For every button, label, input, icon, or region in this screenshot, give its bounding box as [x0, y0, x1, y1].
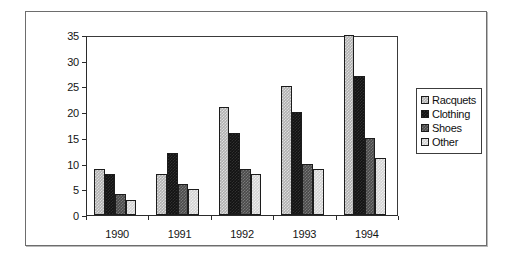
y-tick-label: 10: [67, 159, 79, 170]
y-tick-label: 35: [67, 31, 79, 42]
x-axis-line: [86, 215, 398, 216]
legend-swatch-icon: [421, 124, 429, 132]
bar: [240, 169, 251, 215]
x-axis-label: 1991: [168, 229, 192, 240]
x-tick-mark: [86, 216, 87, 220]
x-tick-mark: [398, 216, 399, 220]
y-tick-mark: [82, 139, 86, 140]
legend-item[interactable]: Shoes: [421, 121, 476, 135]
legend-item[interactable]: Other: [421, 135, 476, 149]
bar: [292, 112, 303, 215]
legend-label: Racquets: [432, 95, 476, 106]
legend-swatch-icon: [421, 110, 429, 118]
y-tick-label: 25: [67, 82, 79, 93]
y-tick-label: 0: [73, 211, 79, 222]
x-axis-label: 1994: [355, 229, 379, 240]
x-tick-mark: [211, 216, 212, 220]
bar: [105, 174, 116, 215]
y-tick-mark: [82, 190, 86, 191]
y-tick-label: 20: [67, 108, 79, 119]
bar: [229, 133, 240, 215]
y-axis-line: [86, 36, 87, 216]
bar: [94, 169, 105, 215]
legend-swatch-icon: [421, 96, 429, 104]
bar: [115, 194, 126, 215]
bar: [313, 169, 324, 215]
bar: [167, 153, 178, 215]
bar-group: [219, 36, 261, 215]
bar: [126, 200, 137, 215]
y-tick-label: 5: [73, 185, 79, 196]
x-axis-label: 1993: [293, 229, 317, 240]
bar: [365, 138, 376, 215]
y-tick-mark: [82, 165, 86, 166]
legend-label: Other: [432, 137, 458, 148]
bar-group: [281, 36, 323, 215]
legend-label: Shoes: [432, 123, 462, 134]
x-tick-mark: [336, 216, 337, 220]
legend-item[interactable]: Racquets: [421, 93, 476, 107]
bar: [281, 86, 292, 215]
bar: [375, 158, 386, 215]
chart-legend: RacquetsClothingShoesOther: [416, 88, 482, 154]
y-tick-mark: [82, 62, 86, 63]
y-tick-mark: [82, 87, 86, 88]
legend-item[interactable]: Clothing: [421, 107, 476, 121]
bar: [251, 174, 262, 215]
bar: [354, 76, 365, 215]
y-tick-label: 30: [67, 56, 79, 67]
bar-group: [94, 36, 136, 215]
bar: [178, 184, 189, 215]
y-tick-label: 15: [67, 133, 79, 144]
x-tick-mark: [273, 216, 274, 220]
x-axis-label: 1992: [230, 229, 254, 240]
bar: [156, 174, 167, 215]
bar: [188, 189, 199, 215]
legend-swatch-icon: [421, 138, 429, 146]
legend-label: Clothing: [432, 109, 470, 120]
bar: [302, 164, 313, 215]
x-axis-label: 1990: [105, 229, 129, 240]
plot-area: 05101520253035 19901991199219931994: [86, 36, 398, 216]
chart-outer-frame: 05101520253035 19901991199219931994 Racq…: [25, 11, 487, 246]
bar-group: [344, 36, 386, 215]
x-tick-mark: [148, 216, 149, 220]
chart-screenshot: 05101520253035 19901991199219931994 Racq…: [0, 0, 510, 275]
bar: [344, 35, 355, 215]
y-tick-mark: [82, 36, 86, 37]
bar: [219, 107, 230, 215]
bar-group: [156, 36, 198, 215]
y-tick-mark: [82, 113, 86, 114]
